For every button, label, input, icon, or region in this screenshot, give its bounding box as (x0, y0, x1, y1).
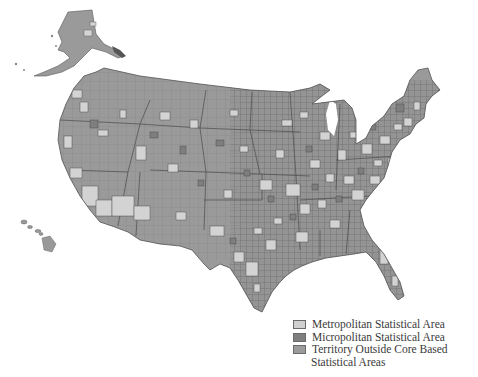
metropolitan-swatch (293, 320, 306, 329)
legend-item-outside-cbsa: Territory Outside Core Based (290, 343, 478, 356)
outside-cbsa-swatch (293, 345, 306, 354)
legend-item-outside-cbsa-continuation: Statistical Areas (290, 356, 478, 369)
legend: Metropolitan Statistical Area Micropolit… (290, 318, 478, 368)
micropolitan-swatch (293, 333, 306, 342)
alaska (15, 10, 126, 76)
contiguous-us (58, 60, 450, 320)
legend-item-micropolitan: Micropolitan Statistical Area (290, 331, 478, 344)
hawaii (21, 220, 56, 252)
legend-item-metropolitan: Metropolitan Statistical Area (290, 318, 478, 331)
